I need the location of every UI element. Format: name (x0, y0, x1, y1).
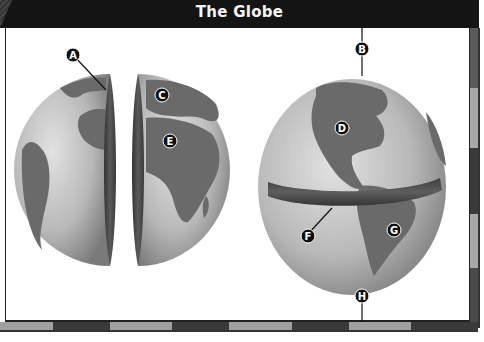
western-hemisphere (14, 74, 116, 266)
svg-text:D: D (338, 123, 346, 134)
label-e: E (163, 134, 177, 148)
label-d: D (335, 121, 349, 135)
svg-text:A: A (69, 50, 77, 61)
whole-globe (258, 79, 446, 295)
label-h: H (355, 289, 369, 303)
label-b: B (355, 42, 369, 56)
label-g: G (387, 223, 401, 237)
svg-text:C: C (158, 90, 165, 101)
label-a: A (66, 48, 80, 62)
label-c: C (155, 88, 169, 102)
svg-text:F: F (305, 231, 312, 242)
label-f: F (301, 229, 315, 243)
svg-text:B: B (358, 44, 366, 55)
svg-text:E: E (167, 136, 174, 147)
svg-text:G: G (390, 225, 398, 236)
svg-text:H: H (358, 291, 366, 302)
globe-diagram: A B C D E F G H (0, 0, 484, 342)
eastern-hemisphere (132, 74, 230, 266)
